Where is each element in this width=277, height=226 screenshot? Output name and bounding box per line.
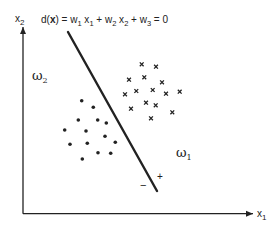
class-omega2-points <box>63 99 117 161</box>
cross-point <box>142 75 146 79</box>
dot-point <box>92 106 96 110</box>
dot-point <box>96 151 100 155</box>
cross-point <box>149 116 153 120</box>
cross-point <box>178 90 182 94</box>
cross-point <box>151 88 155 92</box>
decision-boundary-plot: x2 x1 d(x) = w1 x1 + w2 x2 + w3 = 0 − + … <box>0 0 277 226</box>
positive-side-sign: + <box>157 171 163 182</box>
dot-point <box>96 118 100 122</box>
dot-point <box>81 157 85 161</box>
cross-point <box>154 65 158 69</box>
dot-point <box>105 121 109 125</box>
cross-point <box>129 107 133 111</box>
decision-function-equation: d(x) = w1 x1 + w2 x2 + w3 = 0 <box>41 14 168 28</box>
class-label-omega2: ω2 <box>32 68 48 85</box>
class-label-omega1: ω1 <box>176 145 192 162</box>
decision-boundary-line <box>68 32 157 191</box>
dot-point <box>103 135 107 139</box>
dot-point <box>114 141 118 145</box>
cross-point <box>160 80 164 84</box>
negative-side-sign: − <box>140 179 146 191</box>
dot-point <box>77 118 81 122</box>
x-axis-label: x1 <box>257 208 267 222</box>
y-axis-label: x2 <box>15 13 25 27</box>
cross-point <box>123 92 127 96</box>
dot-point <box>109 152 113 156</box>
cross-point <box>154 103 158 107</box>
dot-point <box>68 143 72 147</box>
dot-point <box>84 129 88 133</box>
cross-point <box>127 78 131 82</box>
class-omega1-points <box>123 62 182 120</box>
dot-point <box>80 99 84 103</box>
cross-point <box>134 89 138 93</box>
cross-point <box>164 92 168 96</box>
dot-point <box>86 142 90 146</box>
cross-point <box>140 62 144 66</box>
dot-point <box>63 128 67 132</box>
cross-point <box>144 101 148 105</box>
diagram-canvas: x2 x1 d(x) = w1 x1 + w2 x2 + w3 = 0 − + … <box>0 0 277 226</box>
cross-point <box>170 110 174 114</box>
